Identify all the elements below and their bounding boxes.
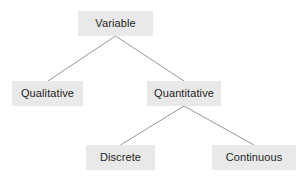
connector-variable-qualitative <box>48 36 116 81</box>
node-quantitative-label: Quantitative <box>154 88 214 99</box>
node-qualitative-label: Qualitative <box>21 88 74 99</box>
diagram-canvas: Variable Qualitative Quantitative Discre… <box>0 0 307 177</box>
node-discrete[interactable]: Discrete <box>86 145 155 170</box>
node-discrete-label: Discrete <box>100 152 141 163</box>
node-continuous-label: Continuous <box>226 152 283 163</box>
connector-quantitative-continuous <box>184 106 254 145</box>
connector-quantitative-discrete <box>121 106 185 145</box>
node-quantitative[interactable]: Quantitative <box>147 81 221 106</box>
node-qualitative[interactable]: Qualitative <box>12 81 83 106</box>
node-continuous[interactable]: Continuous <box>212 145 296 170</box>
connector-variable-quantitative <box>116 36 185 81</box>
node-variable[interactable]: Variable <box>78 11 153 36</box>
node-variable-label: Variable <box>95 18 135 29</box>
